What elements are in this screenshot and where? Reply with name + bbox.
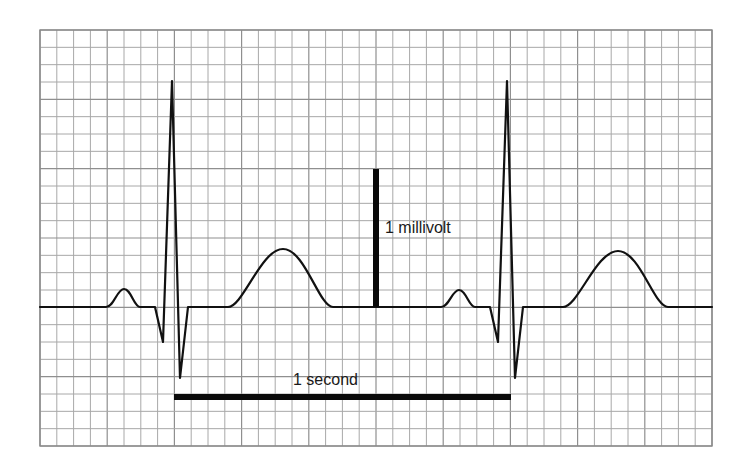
ecg-diagram [0, 0, 747, 466]
second-label: 1 second [293, 372, 358, 388]
second-scale-bar [174, 394, 511, 400]
millivolt-label: 1 millivolt [385, 220, 451, 236]
millivolt-scale-bar [373, 169, 379, 307]
